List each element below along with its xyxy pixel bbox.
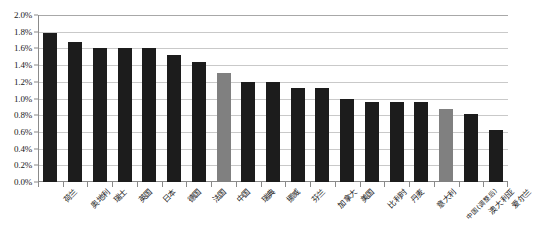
bar[interactable] (118, 48, 132, 182)
x-axis-tick-label: 法国 (210, 187, 228, 205)
bar[interactable] (43, 33, 57, 182)
x-axis-tick-label: 奥地利 (89, 187, 112, 210)
bar-slot (211, 15, 236, 182)
bar-slot (310, 15, 335, 182)
bar[interactable] (365, 102, 379, 182)
bar-slot (483, 15, 508, 182)
y-axis-tick-label: 0.8% (14, 110, 32, 120)
x-axis-tick-label: 意大利 (435, 187, 458, 210)
x-axis-tick-label: 挪威 (285, 187, 303, 205)
bar-slot (137, 15, 162, 182)
x-axis-tick-label: 加拿大 (336, 187, 359, 210)
x-axis-tick-label: 瑞士 (111, 187, 129, 205)
bar-slot (236, 15, 261, 182)
y-axis-tick-label: 0.0% (14, 177, 32, 187)
bar-slot (459, 15, 484, 182)
bar[interactable] (217, 73, 231, 182)
bar[interactable] (192, 62, 206, 182)
bar-slot (186, 15, 211, 182)
bar[interactable] (167, 55, 181, 182)
bar-slot (285, 15, 310, 182)
bar[interactable] (241, 82, 255, 182)
bar-slot (112, 15, 137, 182)
bar[interactable] (93, 48, 107, 182)
bar[interactable] (266, 82, 280, 182)
bar-slot (360, 15, 385, 182)
x-axis-tick-label: 日本 (161, 187, 179, 205)
x-axis-tick-label: 英国 (136, 187, 154, 205)
bar-slot (162, 15, 187, 182)
bar[interactable] (340, 99, 354, 183)
y-axis-tick-label: 0.6% (14, 127, 32, 137)
y-axis: 0.0%0.2%0.4%0.6%0.8%1.0%1.2%1.4%1.6%1.8%… (0, 0, 38, 197)
x-axis-tick-label: 芬兰 (309, 187, 327, 205)
x-axis-tick-label: 丹麦 (408, 187, 426, 205)
x-axis-tick-label: 美国 (359, 187, 377, 205)
bar[interactable] (390, 102, 404, 182)
y-axis-tick-label: 1.4% (14, 60, 32, 70)
bar[interactable] (489, 130, 503, 182)
x-axis-tick-label: 德国 (186, 187, 204, 205)
bar[interactable] (291, 88, 305, 182)
x-axis-tick-label: 比利时 (386, 187, 409, 210)
bar-slot (434, 15, 459, 182)
y-axis-tick-label: 0.4% (14, 144, 32, 154)
bar-slot (87, 15, 112, 182)
y-axis-tick-label: 1.0% (14, 94, 32, 104)
bar-slot (63, 15, 88, 182)
bars-container (38, 15, 508, 182)
bar[interactable] (464, 114, 478, 182)
bar-slot (409, 15, 434, 182)
bar[interactable] (414, 102, 428, 182)
bar[interactable] (315, 88, 329, 182)
bar[interactable] (68, 42, 82, 182)
x-axis-tick-label: 瑞典 (260, 187, 278, 205)
x-axis-labels: 荷兰奥地利瑞士英国日本德国法国中国瑞典挪威芬兰加拿大美国比利时丹麦意大利中国(调… (38, 187, 508, 244)
y-axis-tick-label: 0.2% (14, 160, 32, 170)
bar-slot (38, 15, 63, 182)
y-axis-tick-label: 2.0% (14, 10, 32, 20)
y-axis-tick-label: 1.6% (14, 43, 32, 53)
y-axis-tick-label: 1.2% (14, 77, 32, 87)
bar-slot (384, 15, 409, 182)
x-axis-tick-label: 中国 (235, 187, 253, 205)
bar-slot (261, 15, 286, 182)
y-axis-tick-label: 1.8% (14, 27, 32, 37)
bar[interactable] (439, 109, 453, 182)
bar-slot (335, 15, 360, 182)
bar[interactable] (142, 48, 156, 182)
x-axis-tick-label: 荷兰 (62, 187, 80, 205)
